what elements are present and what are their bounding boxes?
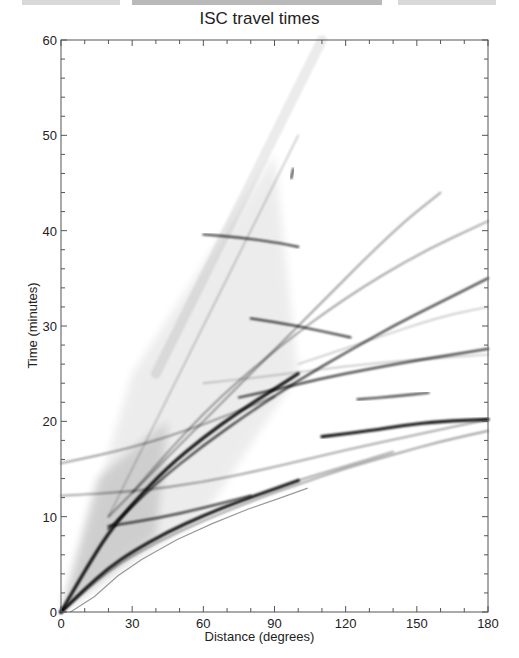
branch-pdiff (298, 452, 393, 481)
branch-short-segment-46-min (291, 169, 293, 179)
plot-area: 03060901201501800102030405060 (0, 0, 519, 658)
y-tick-label: 30 (43, 319, 57, 334)
y-axis-label: Time (minutes) (25, 266, 40, 386)
y-tick-label: 20 (43, 414, 57, 429)
y-tick-label: 10 (43, 510, 57, 525)
y-tick-label: 0 (50, 605, 57, 620)
x-axis-label: Distance (degrees) (0, 629, 519, 644)
branch-pkp (322, 419, 488, 436)
branch-skp-pks-branch (358, 393, 429, 400)
y-tick-label: 40 (43, 224, 57, 239)
y-tick-label: 50 (43, 128, 57, 143)
branch-skks (298, 307, 488, 364)
density-haze (61, 154, 298, 612)
y-tick-label: 60 (43, 33, 57, 48)
